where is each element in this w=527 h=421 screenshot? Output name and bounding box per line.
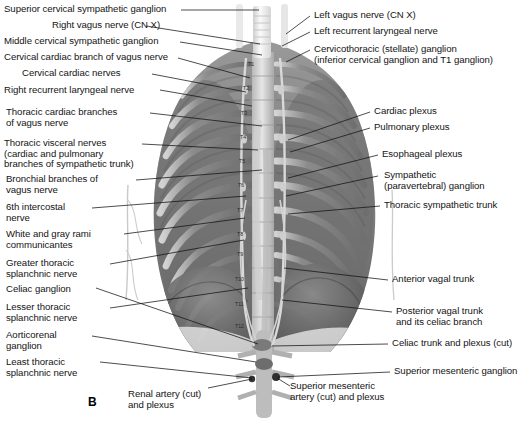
- label-sympathetic-paravertebral-ganglion: Sympathetic (paravertebral) ganglion: [384, 170, 485, 191]
- label-lesser-thoracic-splanchnic-nerve: Lesser thoracic splanchnic nerve: [6, 302, 77, 323]
- label-thoracic-sympathetic-trunk: Thoracic sympathetic trunk: [384, 200, 497, 211]
- label-right-recurrent-laryngeal-nerve: Right recurrent laryngeal nerve: [4, 85, 134, 96]
- vertebral-level-t4: T4: [240, 134, 246, 140]
- label-superior-cervical-sympathetic-ganglion: Superior cervical sympathetic ganglion: [4, 4, 166, 15]
- panel-label-b: B: [88, 395, 97, 409]
- label-pulmonary-plexus: Pulmonary plexus: [374, 122, 449, 133]
- label-cervicothoracic-stellate-ganglion: Cervicothoracic (stellate) ganglion (inf…: [314, 44, 493, 65]
- vertebral-level-t11: T11: [235, 301, 244, 307]
- label-anterior-vagal-trunk: Anterior vagal trunk: [392, 274, 474, 285]
- vertebral-level-t7: T7: [237, 207, 243, 213]
- label-esophageal-plexus: Esophageal plexus: [382, 149, 462, 160]
- label-celiac-ganglion: Celiac ganglion: [6, 284, 71, 295]
- label-aorticorenal-ganglion: Aorticorenal ganglion: [6, 330, 57, 351]
- vertebral-level-t1: T1: [248, 61, 254, 67]
- vertebral-level-t9: T9: [237, 251, 243, 257]
- label-renal-artery-cut-and-plexus: Renal artery (cut) and plexus: [128, 389, 201, 410]
- label-right-vagus-nerve: Right vagus nerve (CN X): [52, 20, 160, 31]
- label-left-vagus-nerve: Left vagus nerve (CN X): [314, 10, 416, 21]
- label-bronchial-branches-of-vagus-nerve: Bronchial branches of vagus nerve: [6, 174, 98, 195]
- label-cervical-cardiac-nerves: Cervical cardiac nerves: [22, 68, 121, 79]
- label-celiac-trunk-and-plexus: Celiac trunk and plexus (cut): [392, 338, 512, 349]
- label-thoracic-visceral-nerves: Thoracic visceral nerves (cardiac and pu…: [4, 138, 134, 170]
- label-cardiac-plexus: Cardiac plexus: [374, 106, 437, 117]
- vertebral-level-t5: T5: [239, 158, 245, 164]
- vertebral-level-t6: T6: [238, 182, 244, 188]
- label-white-and-gray-rami-communicantes: White and gray rami communicantes: [6, 229, 91, 250]
- vertebral-level-t8: T8: [237, 231, 243, 237]
- anatomical-figure: T1T2T3T4T5T6T7T8T9T10T11T12: [0, 0, 527, 421]
- vertebral-level-t10: T10: [235, 276, 244, 282]
- vertebral-level-t2: T2: [243, 85, 249, 91]
- label-greater-thoracic-splanchnic-nerve: Greater thoracic splanchnic nerve: [6, 258, 77, 279]
- label-sixth-intercostal-nerve: 6th intercostal nerve: [6, 202, 65, 223]
- label-middle-cervical-sympathetic-ganglion: Middle cervical sympathetic ganglion: [4, 36, 158, 47]
- vertebral-level-t12: T12: [235, 323, 244, 329]
- label-cervical-cardiac-branch-of-vagus-nerve: Cervical cardiac branch of vagus nerve: [4, 52, 168, 63]
- label-left-recurrent-laryngeal-nerve: Left recurrent laryngeal nerve: [314, 26, 438, 37]
- label-superior-mesenteric-ganglion: Superior mesenteric ganglion: [394, 366, 517, 377]
- label-posterior-vagal-trunk: Posterior vagal trunk and its celiac bra…: [396, 306, 483, 327]
- vertebral-level-t3: T3: [241, 110, 247, 116]
- label-thoracic-cardiac-branches-of-vagus-nerve: Thoracic cardiac branches of vagus nerve: [6, 107, 117, 128]
- label-least-thoracic-splanchnic-nerve: Least thoracic splanchnic nerve: [6, 357, 77, 378]
- label-superior-mesenteric-artery-cut-and-plexus: Superior mesenteric artery (cut) and ple…: [290, 381, 384, 402]
